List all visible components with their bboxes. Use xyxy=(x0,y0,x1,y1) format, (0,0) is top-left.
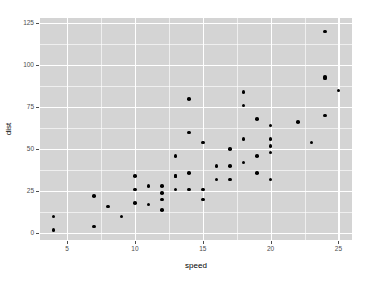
data-point xyxy=(160,208,164,212)
gridline-minor-horizontal xyxy=(40,86,352,87)
gridline-minor-horizontal xyxy=(40,44,352,45)
data-point xyxy=(52,228,56,232)
y-tick-label: 25 xyxy=(14,188,34,195)
y-tick-label: 125 xyxy=(14,20,34,27)
scatter-plot: 510152025 0255075100125 speed dist xyxy=(0,0,368,283)
data-point xyxy=(120,215,124,219)
data-point xyxy=(133,188,137,192)
gridline-major-vertical xyxy=(135,18,136,240)
plot-panel xyxy=(40,18,352,240)
gridline-major-horizontal xyxy=(40,149,352,150)
data-point xyxy=(92,194,96,198)
data-point xyxy=(269,144,273,148)
data-point xyxy=(242,161,246,165)
y-tick-label: 75 xyxy=(14,104,34,111)
gridline-major-vertical xyxy=(338,18,339,240)
data-point xyxy=(106,205,110,209)
data-point xyxy=(187,171,191,175)
data-point xyxy=(296,120,300,124)
gridline-major-vertical xyxy=(67,18,68,240)
gridline-minor-vertical xyxy=(305,18,306,240)
data-point xyxy=(147,203,151,207)
data-point xyxy=(310,141,314,145)
y-tick-label: 0 xyxy=(14,230,34,237)
gridline-minor-horizontal xyxy=(40,170,352,171)
y-tick-mark xyxy=(36,23,39,24)
gridline-minor-horizontal xyxy=(40,212,352,213)
gridline-major-vertical xyxy=(271,18,272,240)
data-point xyxy=(269,151,273,155)
data-point xyxy=(269,178,273,182)
gridline-minor-vertical xyxy=(101,18,102,240)
y-tick-mark xyxy=(36,233,39,234)
data-point xyxy=(174,174,178,178)
y-tick-mark xyxy=(36,107,39,108)
x-tick-label: 5 xyxy=(65,246,69,253)
x-tick-mark xyxy=(203,241,204,244)
data-point xyxy=(201,188,205,192)
data-point xyxy=(323,75,327,79)
data-point xyxy=(242,90,246,94)
data-point xyxy=(92,225,96,229)
x-tick-label: 10 xyxy=(131,246,138,253)
data-point xyxy=(323,114,327,118)
data-point xyxy=(323,30,327,34)
data-point xyxy=(160,191,164,195)
data-point xyxy=(228,147,232,151)
data-point xyxy=(228,178,232,182)
x-tick-label: 15 xyxy=(199,246,206,253)
data-point xyxy=(337,89,341,93)
gridline-major-vertical xyxy=(203,18,204,240)
data-point xyxy=(228,164,232,168)
gridline-major-horizontal xyxy=(40,65,352,66)
y-tick-mark xyxy=(36,65,39,66)
y-tick-label: 100 xyxy=(14,62,34,69)
y-tick-mark xyxy=(36,149,39,150)
y-axis-title: dist xyxy=(5,123,13,135)
data-point xyxy=(269,137,273,141)
y-tick-label: 50 xyxy=(14,146,34,153)
data-point xyxy=(215,164,219,168)
gridline-major-horizontal xyxy=(40,233,352,234)
data-point xyxy=(201,141,205,145)
data-point xyxy=(133,201,137,205)
gridline-major-horizontal xyxy=(40,23,352,24)
x-tick-label: 20 xyxy=(267,246,274,253)
data-point xyxy=(160,198,164,202)
data-point xyxy=(133,174,137,178)
data-point xyxy=(215,178,219,182)
data-point xyxy=(255,171,259,175)
x-tick-mark xyxy=(67,241,68,244)
gridline-major-horizontal xyxy=(40,107,352,108)
y-tick-mark xyxy=(36,191,39,192)
data-point xyxy=(201,198,205,202)
data-point xyxy=(269,124,273,128)
x-tick-mark xyxy=(271,241,272,244)
gridline-minor-vertical xyxy=(169,18,170,240)
data-point xyxy=(242,137,246,141)
x-tick-mark xyxy=(338,241,339,244)
gridline-minor-horizontal xyxy=(40,128,352,129)
x-tick-label: 25 xyxy=(335,246,342,253)
data-point xyxy=(255,117,259,121)
gridline-major-horizontal xyxy=(40,191,352,192)
x-axis-title: speed xyxy=(185,262,207,270)
data-point xyxy=(187,131,191,135)
data-point xyxy=(160,184,164,188)
x-tick-mark xyxy=(135,241,136,244)
gridline-minor-vertical xyxy=(237,18,238,240)
data-point xyxy=(174,154,178,158)
data-point xyxy=(52,215,56,219)
data-point xyxy=(147,184,151,188)
data-point xyxy=(255,154,259,158)
data-point xyxy=(187,97,191,101)
